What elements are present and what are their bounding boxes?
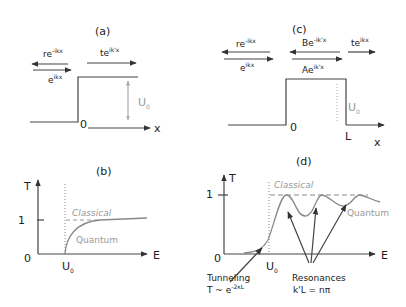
classical-label: Classical <box>72 208 112 218</box>
step-potential <box>30 77 138 122</box>
reflected-wave-label: re-ikx <box>43 47 63 59</box>
transmitted-wave-label: teik'x <box>100 46 120 58</box>
x-axis-label: E <box>381 249 388 262</box>
barrier-height-label: U0 <box>138 96 150 110</box>
barrier-width-label: L <box>345 130 352 143</box>
resonance-arrow-1 <box>288 212 309 263</box>
tunneling-title: Tunneling <box>206 273 250 283</box>
x-tick-u0: U0 <box>266 260 278 274</box>
panel-c: (c) re-ikx eikx Be-ik'x Aeik'x teikx U0 … <box>222 23 384 149</box>
y-tick-1: 1 <box>206 188 213 201</box>
x-tick-u0: U0 <box>62 260 74 274</box>
panel-a: (a) re-ikx eikx teik'x U0 0 x <box>30 25 161 135</box>
panel-b: (b) T E 1 0 U0 Classical Quantum <box>18 165 160 274</box>
panel-d-label: (d) <box>296 155 312 168</box>
transmitted-wave-label: teikx <box>351 36 369 48</box>
x-axis-label: E <box>153 249 160 262</box>
forward-wave-label: Aeik'x <box>302 63 324 75</box>
barrier-height-label: U0 <box>348 101 360 115</box>
incident-wave-label: eikx <box>48 73 63 85</box>
square-barrier <box>228 79 346 125</box>
panel-a-label: (a) <box>95 25 110 38</box>
quantum-label: Quantum <box>76 235 118 245</box>
x-axis-label: x <box>154 122 161 135</box>
panel-c-label: (c) <box>292 23 307 36</box>
reflected-wave-label: re-ikx <box>236 37 256 49</box>
y-tick-1: 1 <box>18 214 25 227</box>
panel-d: (d) T E 1 0 U0 Classical Quantum Tunneli… <box>206 155 389 295</box>
y-tick-0: 0 <box>24 252 31 265</box>
tunneling-formula: T ~ e-2κL <box>206 283 245 295</box>
quantum-label: Quantum <box>347 208 389 218</box>
resonances-title: Resonances <box>292 273 346 283</box>
backward-wave-label: Be-ik'x <box>302 36 327 48</box>
incident-wave-label: eikx <box>240 61 255 73</box>
origin-label: 0 <box>290 121 297 134</box>
y-tick-0: 0 <box>214 252 221 265</box>
origin-label: 0 <box>80 118 87 131</box>
classical-label: Classical <box>274 180 314 190</box>
y-axis-label: T <box>228 172 236 185</box>
y-axis-label: T <box>23 180 31 193</box>
quantum-barrier-diagram: (a) re-ikx eikx teik'x U0 0 x (c) re-ikx… <box>0 0 406 307</box>
x-axis-label: x <box>374 136 381 149</box>
resonance-arrow-2 <box>311 208 316 263</box>
panel-b-label: (b) <box>96 165 112 178</box>
quantum-curve <box>244 195 380 253</box>
resonances-formula: k'L = nπ <box>293 285 331 295</box>
